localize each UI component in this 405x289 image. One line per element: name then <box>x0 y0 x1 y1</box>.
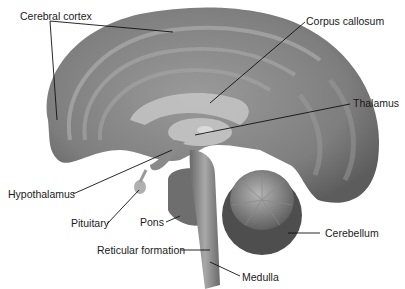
pituitary-gland <box>134 180 146 194</box>
label-hypothalamus: Hypothalamus <box>8 189 75 200</box>
label-cerebellum: Cerebellum <box>325 228 379 239</box>
label-thalamus: Thalamus <box>353 98 399 109</box>
label-corpus-callosum: Corpus callosum <box>306 16 384 27</box>
brainstem <box>168 150 220 289</box>
brain-illustration <box>0 0 405 289</box>
label-cerebral-cortex: Cerebral cortex <box>20 11 92 22</box>
label-medulla: Medulla <box>242 272 279 283</box>
label-pons: Pons <box>140 217 164 228</box>
label-reticular-formation: Reticular formation <box>97 245 185 256</box>
label-pituitary: Pituitary <box>71 218 109 229</box>
cerebellum <box>222 170 302 255</box>
